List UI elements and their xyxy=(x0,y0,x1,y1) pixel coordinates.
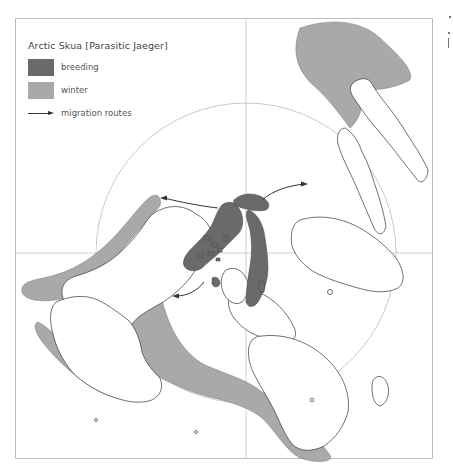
map-legend: Arctic Skua [Parasitic Jaeger] breeding … xyxy=(28,40,168,127)
edge-mark xyxy=(449,16,451,18)
legend-title: Arctic Skua [Parasitic Jaeger] xyxy=(28,40,168,51)
breeding-swatch xyxy=(28,59,54,76)
edge-mark xyxy=(448,38,449,48)
edge-mark xyxy=(448,32,450,34)
legend-item-winter: winter xyxy=(28,81,168,99)
legend-label: winter xyxy=(61,85,88,95)
winter-swatch xyxy=(28,82,54,99)
legend-item-migration: migration routes xyxy=(28,104,168,122)
arrow-icon xyxy=(28,105,54,122)
legend-label: migration routes xyxy=(61,108,132,118)
legend-label: breeding xyxy=(61,62,99,72)
legend-item-breeding: breeding xyxy=(28,58,168,76)
